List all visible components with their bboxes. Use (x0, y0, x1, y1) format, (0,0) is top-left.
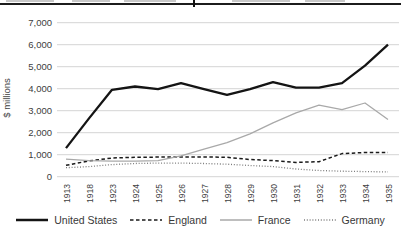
chart-canvas: $ millions 7,0006,0005,0004,0003,0002,00… (0, 6, 401, 208)
chart-legend: United States England France Germany (0, 207, 401, 232)
x-tick-label: 1930 (269, 184, 279, 203)
y-tick-label: 5,000 (28, 61, 52, 72)
x-tick-label: 1929 (246, 184, 256, 203)
legend-item-germany: Germany (304, 214, 385, 226)
y-tick-label: 3,000 (28, 105, 52, 116)
x-tick-label: 1932 (315, 184, 325, 203)
y-tick-label: 2,000 (28, 127, 52, 138)
top-divider-rule (0, 3, 401, 5)
cropped-text-fragment (124, 0, 176, 2)
cropped-text-fragment (6, 0, 54, 2)
legend-label: England (168, 214, 207, 226)
legend-swatch-dotted-line-icon (304, 217, 336, 223)
legend-label: United States (54, 214, 117, 226)
legend-swatch-solid-gray-icon (220, 217, 252, 223)
x-tick-label: 1935 (384, 184, 394, 203)
x-tick-label: 1924 (131, 184, 141, 203)
legend-label: France (258, 214, 291, 226)
y-tick-label: 4,000 (28, 83, 52, 94)
legend-label: Germany (342, 214, 385, 226)
legend-item-england: England (130, 214, 207, 226)
x-tick-label: 1926 (177, 184, 187, 203)
x-tick-label: 1928 (223, 184, 233, 203)
x-tick-label: 1927 (200, 184, 210, 203)
series-line-france (66, 103, 388, 161)
x-tick-label: 1934 (361, 184, 371, 203)
y-axis-title: $ millions (1, 78, 12, 118)
legend-swatch-dashed-line-icon (130, 217, 162, 223)
y-tick-label: 1,000 (28, 149, 52, 160)
x-tick-label: 1918 (85, 184, 95, 203)
series-line-germany (66, 163, 388, 172)
x-tick-label: 1923 (108, 184, 118, 203)
y-tick-label: 7,000 (28, 17, 52, 28)
legend-swatch-solid-black-icon (16, 217, 48, 223)
legend-item-united-states: United States (16, 214, 117, 226)
x-tick-label: 1933 (338, 184, 348, 203)
y-tick-label: 6,000 (28, 39, 52, 50)
cropped-text-fragment (305, 0, 345, 2)
cropped-text-fragment (72, 0, 110, 2)
x-tick-label: 1931 (292, 184, 302, 203)
legend-item-france: France (220, 214, 291, 226)
cropped-text-fragment (232, 0, 290, 2)
x-tick-label: 1925 (154, 184, 164, 203)
line-chart: $ millions 7,0006,0005,0004,0003,0002,00… (0, 6, 401, 208)
y-tick-label: 0 (47, 171, 52, 182)
x-tick-label: 1913 (62, 184, 72, 203)
